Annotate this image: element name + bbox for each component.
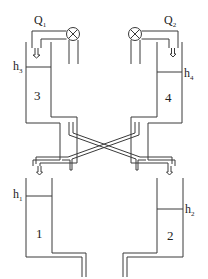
tank-1-number: 1 — [36, 226, 43, 241]
outflow-arrow-1 — [37, 166, 43, 175]
h2-label: h2 — [185, 202, 195, 218]
tank-4 — [131, 42, 182, 158]
inflow-arrow-4 — [170, 48, 176, 57]
tank-2-number: 2 — [167, 228, 174, 243]
quadruple-tank-diagram: Q1 Q2 h3 h4 h1 h2 3 4 1 2 — [0, 0, 208, 279]
tank-1 — [26, 178, 86, 277]
h4-label: h4 — [184, 66, 194, 82]
outflow-arrow-2 — [167, 166, 173, 175]
h3-label: h3 — [13, 59, 23, 75]
valve-2-group — [129, 28, 179, 65]
q1-label: Q1 — [34, 13, 47, 29]
tank-4-number: 4 — [165, 90, 172, 105]
tank-3-number: 3 — [34, 88, 41, 103]
tank-2 — [123, 178, 183, 277]
valve-1-group — [32, 28, 80, 65]
q2-label: Q2 — [164, 13, 177, 29]
inflow-arrow-3 — [33, 48, 40, 58]
h1-label: h1 — [13, 187, 23, 203]
cross-pipes — [33, 122, 175, 175]
